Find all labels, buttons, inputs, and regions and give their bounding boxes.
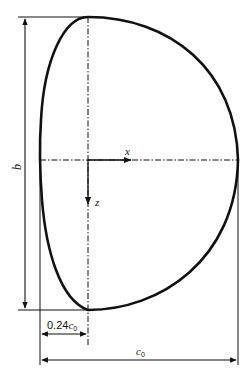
span-label: b [10, 164, 24, 170]
offset-label: 0.24c0 [47, 319, 77, 332]
planform-outline [40, 17, 238, 310]
planform-diagram: x z b 0.24c0 c0 [0, 0, 250, 381]
chord-label: c0 [136, 345, 145, 358]
z-axis-label: z [94, 196, 100, 208]
x-axis-label: x [124, 145, 130, 157]
